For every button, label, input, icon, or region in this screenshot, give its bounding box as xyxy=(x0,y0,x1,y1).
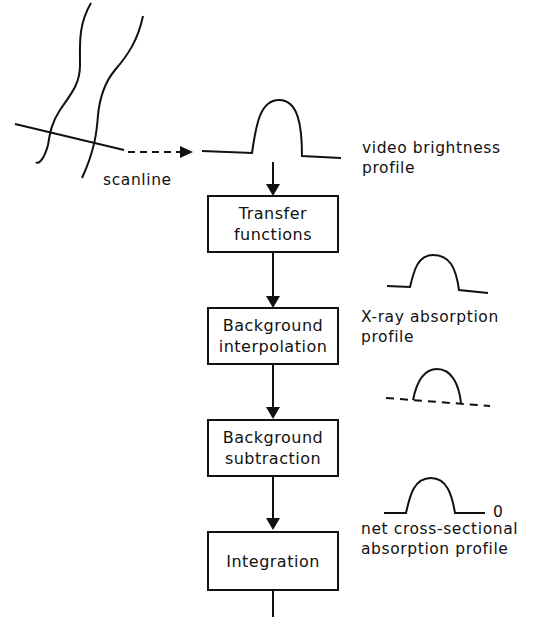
video-brightness-label: video brightnessprofile xyxy=(362,138,501,178)
vessel-wall-right xyxy=(82,16,143,178)
xray-absorption-curve xyxy=(387,255,488,293)
interpolated-baseline-dashed xyxy=(386,398,490,406)
step-background-interpolation: Backgroundinterpolation xyxy=(207,307,339,365)
net-absorption-curve xyxy=(384,478,485,513)
scanline xyxy=(15,124,124,150)
interpolated-profile-curve xyxy=(413,369,461,403)
step-transfer-functions: Transferfunctions xyxy=(207,195,339,253)
step-integration: Integration xyxy=(207,531,339,591)
step-background-subtraction: Backgroundsubtraction xyxy=(207,419,339,477)
vessel-wall-left xyxy=(36,3,91,163)
video-brightness-curve xyxy=(202,100,341,158)
arrowhead-icon xyxy=(180,146,193,158)
xray-absorption-label: X-ray absorptionprofile xyxy=(361,307,499,347)
net-absorption-label: net cross-sectionalabsorption profile xyxy=(361,519,518,559)
scanline-label: scanline xyxy=(103,170,172,190)
